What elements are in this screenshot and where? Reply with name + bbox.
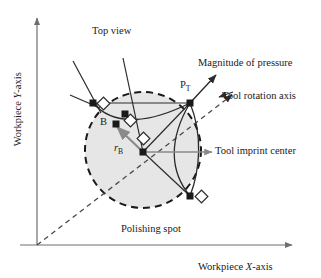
y-axis-label-prefix: Workpiece [12,98,23,146]
y-axis-label-var: Y [12,93,23,99]
chord-line-left [73,61,101,113]
x-axis-label-prefix: Workpiece [198,261,246,272]
marker-point-pt [187,100,194,107]
marker-point-mid-upper [122,111,129,118]
point-pt-label: PT [180,80,190,93]
marker-tool-imprint-center [140,149,147,156]
x-axis-label: Workpiece X-axis [198,262,273,273]
magnitude-of-pressure-label: Magnitude of pressure [198,58,292,69]
y-axis-label: Workpiece Y-axis [13,63,24,155]
marker-point-bottom-right [187,193,194,200]
marker-point-b [113,121,120,128]
polishing-spot-diagram: Top view Magnitude of pressure Tool rota… [0,0,321,278]
x-axis-label-suffix: -axis [252,261,272,272]
radius-rb-subscript: B [118,147,123,156]
top-view-label: Top view [92,26,131,37]
right-angle-icon-bottom-right [195,190,208,203]
point-pt-subscript: T [186,84,191,93]
diagram-canvas [0,0,321,278]
point-b-label: B [100,117,107,128]
magnitude-of-pressure-arrow [190,75,216,103]
marker-point-top-left [90,100,97,107]
radius-rb-label: rB [114,143,123,156]
y-axis-label-suffix: -axis [12,72,23,92]
tool-imprint-center-label: Tool imprint center [215,146,296,157]
polishing-spot-label: Polishing spot [121,224,181,235]
tool-rotation-axis-label: Tool rotation axis [222,91,296,102]
